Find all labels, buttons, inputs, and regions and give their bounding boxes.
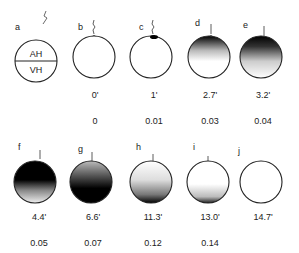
time-label: 1' [127,90,181,100]
needle-icon [40,10,50,26]
panel-label: a [15,22,20,32]
fraction-label: 0 [68,116,122,126]
panel-label: c [139,22,144,32]
eye-diagram [238,159,284,205]
fraction-label: 0.01 [127,116,181,126]
fraction-label: 0.14 [183,238,237,248]
panel-i: i 13.0' 0.14 [183,140,237,250]
eye-diagram [185,159,231,205]
panel-c: c 1' 0.01 [125,8,179,128]
panel-label: b [78,22,83,32]
panel-label: d [195,18,200,28]
panel-label: i [193,142,195,152]
eye-diagram [71,34,117,80]
time-label: 2.7' [183,90,237,100]
time-label: 13.0' [183,212,237,222]
panel-h: h 11.3' 0.12 [124,140,178,250]
panel-label: j [238,146,240,156]
panel-label: g [78,144,83,154]
fraction-label: 0.05 [12,238,66,248]
ah-label: AH [9,49,63,59]
time-label: 11.3' [126,212,180,222]
panel-b: b 0' 0 [68,8,122,128]
eye-diagram [238,34,284,80]
panel-a: a AH VH [10,8,64,88]
fraction-label: 0.12 [126,238,180,248]
eye-diagram [68,159,114,205]
eye-diagram [186,34,232,80]
eye-diagram [13,38,59,84]
panel-label: h [136,142,141,152]
fraction-label: 0.04 [236,116,290,126]
fraction-label: 0.07 [66,238,120,248]
panel-d: d 2.7' 0.03 [183,8,237,128]
time-label: 0' [68,90,122,100]
vh-label: VH [9,65,63,75]
panel-j: j 14.7' [240,140,294,250]
time-label: 14.7' [236,212,290,222]
eye-diagram [128,159,174,205]
eye-diagram [128,34,174,80]
time-label: 4.4' [12,212,66,222]
fraction-label: 0.03 [183,116,237,126]
panel-e: e 3.2' 0.04 [240,8,294,128]
panel-f: f 4.4' 0.05 [8,140,62,250]
panel-g: g 6.6' 0.07 [66,140,120,250]
time-label: 6.6' [66,212,120,222]
panel-label: f [18,142,21,152]
eye-diagram [12,159,58,205]
panel-label: e [243,20,248,30]
time-label: 3.2' [236,90,290,100]
